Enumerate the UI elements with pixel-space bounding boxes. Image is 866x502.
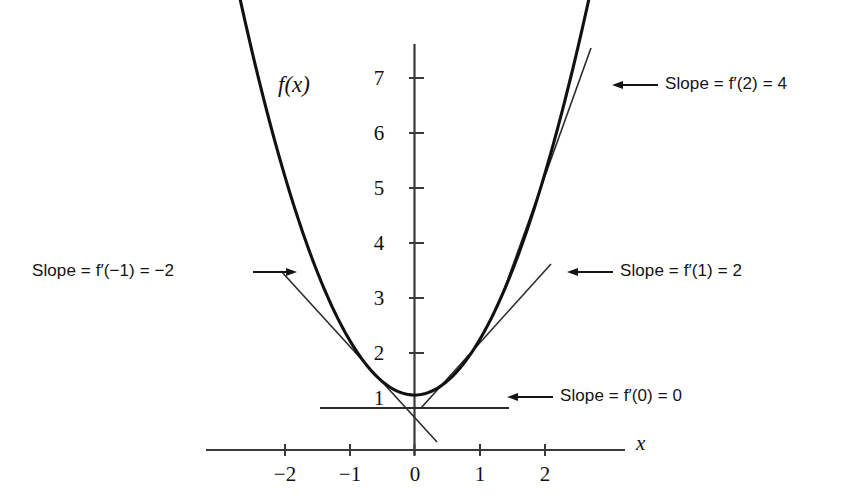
x-tick-label-0: 0 bbox=[395, 462, 435, 487]
x-tick-label-minus1: −1 bbox=[330, 462, 370, 487]
y-tick-label-4: 4 bbox=[366, 231, 392, 256]
y-tick-label-2: 2 bbox=[366, 341, 392, 366]
y-axis-ticks bbox=[409, 78, 424, 408]
annotation-slope-at-2-text: Slope = f′(2) = 4 bbox=[665, 74, 787, 93]
arrow-slope-at-2 bbox=[612, 81, 658, 89]
arrow-slope-at-1 bbox=[567, 268, 613, 276]
parabola-curve bbox=[236, 0, 607, 395]
annotation-slope-at-1: Slope = f′(1) = 2 bbox=[620, 261, 742, 281]
x-tick-label-2: 2 bbox=[525, 462, 565, 487]
annotation-slope-at-0-text: Slope = f′(0) = 0 bbox=[560, 386, 682, 405]
arrow-slope-at-0 bbox=[507, 393, 553, 401]
arrow-slope-at-minus-1 bbox=[253, 268, 297, 276]
y-tick-label-7: 7 bbox=[366, 66, 392, 91]
y-tick-label-5: 5 bbox=[366, 176, 392, 201]
annotation-slope-at-2: Slope = f′(2) = 4 bbox=[665, 74, 787, 94]
y-tick-label-3: 3 bbox=[366, 286, 392, 311]
y-tick-label-6: 6 bbox=[366, 121, 392, 146]
x-tick-label-minus2: −2 bbox=[265, 462, 305, 487]
y-tick-label-1: 1 bbox=[366, 386, 392, 411]
annotation-slope-at-0: Slope = f′(0) = 0 bbox=[560, 386, 682, 406]
curve-label-fx: f(x) bbox=[278, 72, 310, 98]
annotation-slope-at-1-text: Slope = f′(1) = 2 bbox=[620, 261, 742, 280]
x-tick-label-1: 1 bbox=[460, 462, 500, 487]
annotation-slope-at-minus-1: Slope = f′(−1) = −2 bbox=[32, 261, 174, 281]
x-axis-label: x bbox=[636, 431, 645, 456]
annotation-slope-at-minus-1-text: Slope = f′(−1) = −2 bbox=[32, 261, 174, 280]
